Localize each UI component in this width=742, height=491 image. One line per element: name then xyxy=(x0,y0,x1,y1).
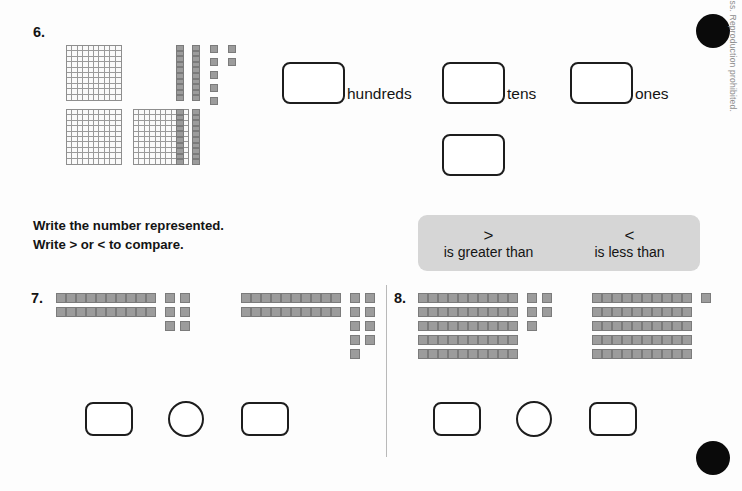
problem-7-comparison-circle[interactable] xyxy=(168,401,204,437)
tens-rods-bottom xyxy=(176,109,200,165)
ones-unit-row xyxy=(527,321,552,331)
tens-rod xyxy=(418,321,518,331)
tens-rod-stack xyxy=(56,293,156,317)
total-answer-group xyxy=(442,134,505,176)
tens-rod xyxy=(176,45,184,101)
tens-rod xyxy=(592,321,692,331)
problem-7-right-answer-box[interactable] xyxy=(241,402,289,436)
worksheet-page: © 2015 BJU Press. Reproduction prohibite… xyxy=(0,0,742,491)
greater-than-label: is greater than xyxy=(444,245,534,259)
ones-unit-grid xyxy=(701,293,711,303)
problem-8-number: 8. xyxy=(394,290,406,306)
ones-unit xyxy=(365,293,375,303)
ones-unit-grid xyxy=(165,293,190,331)
tens-rod xyxy=(56,307,156,317)
ones-unit xyxy=(527,307,537,317)
tens-rod xyxy=(418,349,518,359)
copyright-notice: © 2015 BJU Press. Reproduction prohibite… xyxy=(728,0,738,112)
legend-greater-than: > is greater than xyxy=(418,215,559,271)
ones-unit xyxy=(527,321,537,331)
ones-unit-row xyxy=(527,293,552,303)
hundreds-flat xyxy=(66,109,122,165)
ones-unit xyxy=(165,293,175,303)
ones-unit xyxy=(180,307,190,317)
ones-unit xyxy=(210,84,218,92)
hundreds-flat-row-1 xyxy=(66,45,189,101)
hundreds-answer-group: hundreds xyxy=(282,62,412,104)
ones-unit xyxy=(527,293,537,303)
ones-unit xyxy=(542,293,552,303)
ones-unit xyxy=(165,307,175,317)
ones-label: ones xyxy=(635,86,669,105)
tens-rod xyxy=(241,307,341,317)
ones-unit xyxy=(701,293,711,303)
ones-unit-grid xyxy=(527,293,552,331)
less-than-symbol: < xyxy=(625,227,635,244)
ones-unit xyxy=(210,97,218,105)
problem-8-comparison-circle[interactable] xyxy=(516,401,552,437)
ones-unit-row xyxy=(350,349,375,359)
tens-rod xyxy=(592,349,692,359)
directions-line-2: Write > or < to compare. xyxy=(33,235,224,254)
ones-unit xyxy=(228,58,236,66)
tens-rod xyxy=(192,109,200,165)
problem-6-number: 6. xyxy=(33,24,45,40)
ones-unit xyxy=(350,335,360,345)
ones-unit xyxy=(180,321,190,331)
ones-unit xyxy=(365,307,375,317)
directions-text: Write the number represented. Write > or… xyxy=(33,216,224,254)
comparison-legend: > is greater than < is less than xyxy=(418,215,700,271)
ones-unit-row xyxy=(350,321,375,331)
problem-8-left-answer-box[interactable] xyxy=(433,402,481,436)
problem-7-left-blocks xyxy=(56,293,190,331)
total-number-answer-box[interactable] xyxy=(442,134,505,176)
ones-unit-row xyxy=(350,335,375,345)
tens-rod xyxy=(592,335,692,345)
tens-rod xyxy=(418,307,518,317)
less-than-label: is less than xyxy=(594,245,664,259)
ones-unit xyxy=(210,45,218,53)
ones-unit-row xyxy=(701,293,711,303)
hundreds-label: hundreds xyxy=(347,86,412,105)
ones-unit xyxy=(350,349,360,359)
tens-rod-stack xyxy=(418,293,518,359)
legend-less-than: < is less than xyxy=(559,215,700,271)
ones-unit xyxy=(165,321,175,331)
ones-unit-row xyxy=(527,307,552,317)
tens-rod xyxy=(418,335,518,345)
problem-8-left-blocks xyxy=(418,293,552,359)
tens-rod-stack xyxy=(241,293,341,317)
ones-unit-row xyxy=(350,307,375,317)
problem-8-right-answer-box[interactable] xyxy=(589,402,637,436)
tens-rod xyxy=(56,293,156,303)
problem-divider xyxy=(386,285,387,457)
problem-8-comparison-row xyxy=(433,401,637,437)
ones-units-group xyxy=(210,45,236,105)
ones-unit-row xyxy=(350,293,375,303)
tens-rods-top xyxy=(176,45,200,101)
ones-answer-box[interactable] xyxy=(570,62,633,104)
tens-answer-box[interactable] xyxy=(442,62,505,104)
hundreds-answer-box[interactable] xyxy=(282,62,345,104)
problem-6-base-ten-blocks xyxy=(66,45,189,165)
tens-label: tens xyxy=(507,86,536,105)
registration-dot-bottom-right xyxy=(696,441,730,475)
problem-7-left-answer-box[interactable] xyxy=(85,402,133,436)
ones-unit xyxy=(180,293,190,303)
tens-rod-stack xyxy=(592,293,692,359)
ones-unit-row xyxy=(165,321,190,331)
tens-rod xyxy=(592,293,692,303)
ones-unit xyxy=(365,321,375,331)
greater-than-symbol: > xyxy=(484,227,494,244)
problem-7-right-blocks xyxy=(241,293,375,359)
tens-answer-group: tens xyxy=(442,62,536,104)
ones-unit-row xyxy=(165,307,190,317)
ones-unit xyxy=(350,321,360,331)
hundreds-flat-row-2 xyxy=(66,109,189,165)
tens-rod xyxy=(418,293,518,303)
ones-unit xyxy=(210,71,218,79)
tens-rod xyxy=(192,45,200,101)
ones-unit xyxy=(210,58,218,66)
ones-unit xyxy=(365,335,375,345)
ones-unit xyxy=(228,45,236,53)
